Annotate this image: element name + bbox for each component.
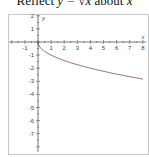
- x-tick-label: -1: [22, 45, 28, 51]
- y-tick-label: -3: [29, 78, 35, 84]
- y-tick-label: -4: [29, 91, 35, 97]
- x-tick-label: 4: [89, 45, 93, 51]
- x-tick-label: 6: [115, 45, 119, 51]
- x-axis-label: x: [141, 34, 146, 40]
- y-tick-label: -6: [29, 118, 35, 124]
- y-tick-label: -1: [29, 52, 35, 58]
- x-tick-label: 2: [63, 45, 67, 51]
- x-tick-label: 1: [49, 45, 53, 51]
- y-tick-label: -2: [29, 65, 35, 71]
- x-tick-label: 7: [128, 45, 132, 51]
- x-tick-label: 3: [76, 45, 80, 51]
- x-tick-label: 8: [141, 45, 145, 51]
- y-tick-label: 1: [31, 26, 35, 32]
- y-tick-label: -7: [29, 131, 35, 137]
- y-tick-label: 2: [31, 13, 35, 19]
- plot-area: -11234567821-1-2-3-4-5-6-7xy: [0, 0, 149, 157]
- y-axis-label: y: [41, 15, 46, 21]
- y-tick-label: -5: [29, 105, 35, 111]
- x-tick-label: 5: [102, 45, 106, 51]
